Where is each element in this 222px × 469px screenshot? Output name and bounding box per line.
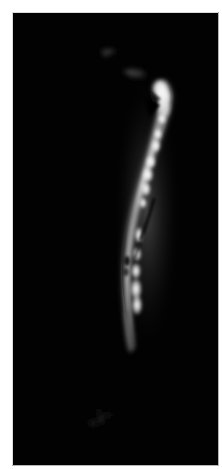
micrograph-canvas <box>13 13 218 465</box>
micrograph-field: Slender, slightly curved elongated body … <box>13 13 218 465</box>
micrograph-figure: Slender, slightly curved elongated body … <box>0 0 222 469</box>
background-artifacts <box>101 49 146 78</box>
micrograph-frame: Slender, slightly curved elongated body … <box>13 13 218 465</box>
specimen-halo <box>113 73 181 353</box>
lower-field-specks <box>89 408 113 426</box>
